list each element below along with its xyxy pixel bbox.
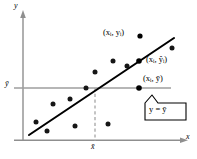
data-point (51, 102, 56, 107)
y-axis (20, 10, 26, 141)
x-axis-label: x (186, 133, 190, 141)
regression-scatter-figure: y x ȳ x̄ (xᵢ, yᵢ) (xᵢ, ŷᵢ) (xᵢ, ȳ) y = … (0, 0, 197, 159)
data-point (34, 120, 39, 125)
fitted-point-label: (xᵢ, ŷᵢ) (146, 55, 167, 64)
x-mean-tick-label: x̄ (91, 143, 95, 151)
mean-point-label: (xᵢ, ȳ) (143, 74, 163, 83)
observed-point-label: (xᵢ, yᵢ) (103, 28, 124, 37)
fitted-point (136, 58, 142, 64)
y-mean-tick-label: ȳ (5, 80, 9, 88)
data-point (84, 86, 89, 91)
plot-canvas (0, 0, 197, 159)
data-point (45, 129, 50, 134)
x-axis (14, 137, 188, 143)
labeled-points (136, 33, 142, 90)
data-point (125, 64, 130, 69)
observed-point (137, 33, 142, 38)
data-point (73, 124, 78, 129)
mean-point (136, 85, 142, 91)
data-point (106, 122, 111, 127)
data-point (93, 70, 98, 75)
data-point (68, 97, 73, 102)
data-point (170, 46, 175, 51)
y-axis-label: y (14, 2, 18, 10)
callout-label: y = ȳ (149, 105, 167, 114)
data-point (111, 59, 116, 64)
